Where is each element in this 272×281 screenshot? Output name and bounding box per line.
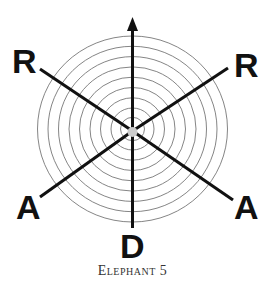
center-dot xyxy=(128,127,138,137)
line-top-right xyxy=(133,68,229,131)
label-top-left: R xyxy=(12,44,37,78)
label-bottom-left: A xyxy=(16,190,41,224)
label-bottom-right: A xyxy=(234,190,259,224)
label-bottom: D xyxy=(120,229,145,263)
line-bottom-left xyxy=(40,131,133,197)
label-top-right: R xyxy=(234,48,259,82)
line-top-left xyxy=(40,69,133,131)
arrow-up-icon xyxy=(127,17,138,31)
figure-caption: Elephant 5 xyxy=(0,263,265,279)
